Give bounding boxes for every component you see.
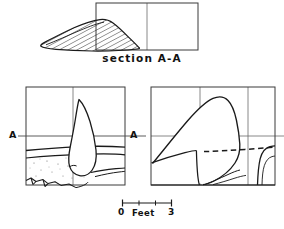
scale-bar-max-label: 3 xyxy=(168,207,175,217)
figure-drawing xyxy=(0,0,284,229)
scale-bar-zero-label: 0 xyxy=(118,207,125,217)
scale-bar-group xyxy=(122,200,172,207)
profile-feature-outline xyxy=(153,97,240,185)
profile-right-step-outline xyxy=(258,146,276,185)
scale-bar-unit-label: Feet xyxy=(132,208,155,218)
section-marker-left-label: A xyxy=(9,129,17,140)
plan-lower-slope-line-secondary xyxy=(95,171,125,176)
section-panel-group xyxy=(41,3,198,51)
section-caption-label: section A-A xyxy=(0,52,284,64)
profile-right-step-inner xyxy=(262,156,275,185)
section-feature-fill xyxy=(41,19,140,51)
section-marker-right-label: A xyxy=(130,129,138,140)
plan-panel-group xyxy=(18,87,146,188)
figure-root: section A-A A A 0 Feet 3 xyxy=(0,0,284,229)
profile-panel-group xyxy=(151,87,284,185)
plan-rubble-edge xyxy=(26,178,76,188)
